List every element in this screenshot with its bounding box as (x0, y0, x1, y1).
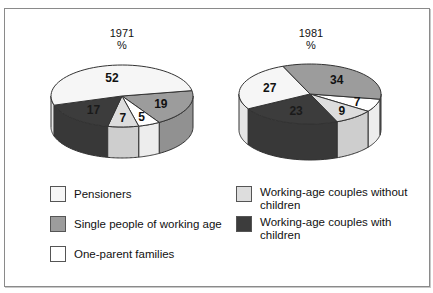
pie-chart-1971: 19571752 (51, 65, 193, 158)
slice-value-label: 23 (289, 104, 303, 118)
legend-swatch (50, 186, 66, 202)
slice-value-label: 27 (263, 81, 277, 95)
slice-value-label: 5 (138, 110, 145, 124)
slice-value-label: 7 (120, 111, 127, 125)
legend-label: One-parent families (74, 246, 224, 261)
legend-label: Working-age couples with children (260, 216, 400, 242)
legend-label: Single people of working age (74, 216, 244, 231)
legend-swatch (236, 216, 252, 232)
legend-item-couples-without-children: Working-age couples without children (236, 186, 420, 212)
legend-label: Pensioners (74, 186, 224, 201)
slice-value-label: 34 (330, 73, 344, 87)
legend-item-couples-with-children: Working-age couples with children (236, 216, 400, 242)
legend-swatch (236, 186, 252, 202)
legend-swatch (50, 216, 66, 232)
slice-value-label: 9 (339, 104, 346, 118)
legend-swatch (50, 246, 66, 262)
pie-side-wall (139, 122, 160, 157)
slice-value-label: 7 (354, 95, 361, 109)
legend-label: Working-age couples without children (260, 186, 420, 212)
pie-chart-1981: 79232734 (239, 64, 381, 160)
slice-value-label: 17 (87, 103, 101, 117)
pie-side-wall (108, 126, 139, 158)
legend-item-pensioners: Pensioners (50, 186, 224, 202)
legend-item-one-parent: One-parent families (50, 246, 224, 262)
slice-value-label: 52 (105, 71, 119, 85)
slice-value-label: 19 (154, 97, 168, 111)
legend-item-single-people: Single people of working age (50, 216, 244, 232)
